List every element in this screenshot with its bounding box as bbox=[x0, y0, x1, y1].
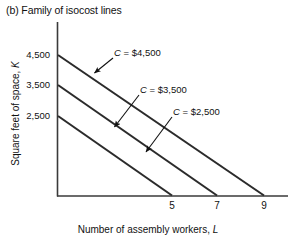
x-tick-label-9: 9 bbox=[252, 200, 276, 211]
annotation-cost-3500: C = $3,500 bbox=[140, 84, 187, 95]
leader-arrow-3500 bbox=[115, 95, 140, 127]
isocost-line-2500 bbox=[58, 116, 172, 196]
annotation-cost-2500: C = $2,500 bbox=[173, 106, 220, 117]
x-tick-label-5: 5 bbox=[160, 200, 184, 211]
x-tick-label-7: 7 bbox=[205, 200, 229, 211]
leader-arrow-2500 bbox=[146, 117, 172, 152]
isocost-line-4500 bbox=[58, 55, 264, 196]
isocost-figure: (b) Family of isocost lines 4,500 3,500 … bbox=[0, 0, 296, 244]
leader-arrow-4500 bbox=[95, 58, 114, 73]
y-axis-label: Square feet of space, K bbox=[10, 29, 21, 199]
isocost-line-3500 bbox=[58, 85, 217, 196]
x-axis-label: Number of assembly workers, L bbox=[0, 224, 296, 235]
annotation-cost-4500: C = $4,500 bbox=[114, 47, 161, 58]
